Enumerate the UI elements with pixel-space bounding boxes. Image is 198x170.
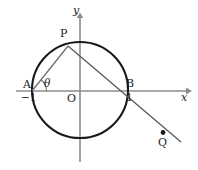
y-axis-label: y bbox=[73, 5, 79, 16]
origin-label: O bbox=[67, 93, 76, 104]
secant-p-b-q bbox=[68, 46, 181, 142]
x-tick-label-one: 1 bbox=[126, 92, 133, 103]
point-label-a: A bbox=[23, 79, 31, 90]
point-label-b: B bbox=[126, 78, 134, 89]
x-tick-label-negative-one: −1 bbox=[21, 92, 36, 103]
point-label-q: Q bbox=[158, 137, 167, 148]
x-axis-label: x bbox=[181, 92, 187, 103]
angle-label-theta: θ bbox=[44, 78, 50, 89]
geometry-figure: P A B Q O −1 1 x y θ bbox=[0, 0, 198, 170]
point-label-p: P bbox=[60, 28, 67, 39]
point-marker-q bbox=[161, 130, 166, 135]
